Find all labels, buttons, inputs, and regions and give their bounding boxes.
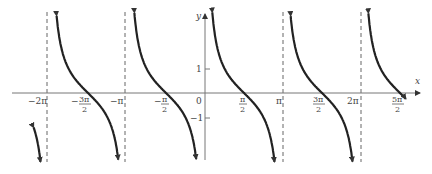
minus-sign: − (154, 96, 162, 106)
x-tick-label-pi: π (276, 96, 282, 106)
y-tick-label-neg1: −1 (190, 113, 203, 123)
x-tick-label-neg-2pi: −2π (28, 96, 47, 106)
numerator: 5π (392, 95, 402, 104)
cot-branch (134, 13, 196, 159)
numerator: π (240, 95, 245, 104)
x-tick-label-5pi-2: 5π 2 (392, 95, 404, 114)
x-tick-label-pi-2: π 2 (239, 95, 247, 114)
y-tick-label-1: 1 (196, 64, 202, 74)
origin-label: 0 (196, 96, 202, 106)
cot-branch (34, 128, 41, 162)
numerator: π (162, 95, 167, 104)
cot-branch (212, 12, 274, 162)
denominator: 2 (82, 105, 87, 114)
denominator: 2 (162, 105, 167, 114)
x-tick-label-3pi-2: 3π 2 (313, 95, 325, 114)
x-tick-label-2pi: 2π (347, 96, 359, 106)
y-axis-label: y (195, 11, 202, 21)
x-axis-label: x (415, 76, 420, 86)
asymptotes (47, 12, 361, 162)
x-tick-label-neg-pi: −π (110, 96, 124, 106)
cot-curves (34, 12, 406, 162)
denominator: 2 (240, 105, 245, 114)
cotangent-graph: x y 0 1 −1 −2π −π π 2π − 3π 2 − π 2 π 2 … (0, 0, 432, 174)
denominator: 2 (395, 105, 400, 114)
denominator: 2 (316, 105, 321, 114)
cot-branch (57, 16, 119, 160)
minus-sign: − (71, 96, 79, 106)
x-tick-label-neg-3pi-2: − 3π 2 (71, 95, 91, 114)
cot-branch (291, 16, 353, 162)
x-tick-label-neg-pi-2: − π 2 (154, 95, 169, 114)
cot-branch (368, 13, 405, 99)
numerator: 3π (79, 95, 89, 104)
numerator: 3π (313, 95, 323, 104)
